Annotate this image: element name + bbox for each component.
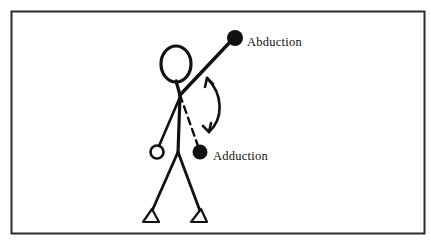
abducted-hand-dot — [227, 30, 243, 46]
resting-hand-circle — [151, 146, 164, 159]
adducted-hand-dot — [193, 145, 208, 160]
adduction-label: Adduction — [213, 149, 269, 163]
figure-canvas: Abduction Adduction — [0, 0, 431, 250]
abduction-label: Abduction — [247, 35, 303, 49]
diagram-svg: Abduction Adduction — [0, 0, 431, 250]
